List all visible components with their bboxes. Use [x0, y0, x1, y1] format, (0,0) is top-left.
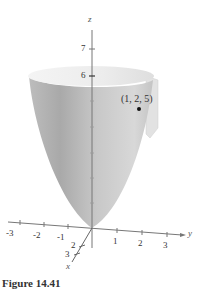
- y-tick-label: -1: [57, 233, 65, 242]
- y-axis-label: y: [188, 229, 192, 238]
- figure-14-41: z 7 6 (1, 2, 5) -3 -2 -1 1 2 3 y 2 3 x F…: [0, 0, 198, 292]
- y-tick-label: -3: [6, 229, 14, 238]
- paraboloid-plot: [0, 0, 198, 292]
- y-tick-label: 2: [138, 239, 143, 248]
- x-tick-label: 3: [65, 250, 70, 259]
- y-tick-label: 3: [163, 241, 168, 250]
- point-label: (1, 2, 5): [121, 94, 153, 104]
- y-tick-label: 1: [113, 237, 118, 246]
- y-axis-arrow: [180, 233, 186, 237]
- x-tick-label: 2: [71, 241, 76, 250]
- figure-caption: Figure 14.41: [2, 277, 60, 289]
- z-tick-label-6: 6: [81, 71, 86, 80]
- point-marker: [137, 107, 141, 111]
- z-tick-label-7: 7: [81, 44, 86, 53]
- x-axis-label: x: [66, 262, 70, 271]
- z-axis-label: z: [88, 15, 92, 24]
- y-tick-label: -2: [33, 231, 41, 240]
